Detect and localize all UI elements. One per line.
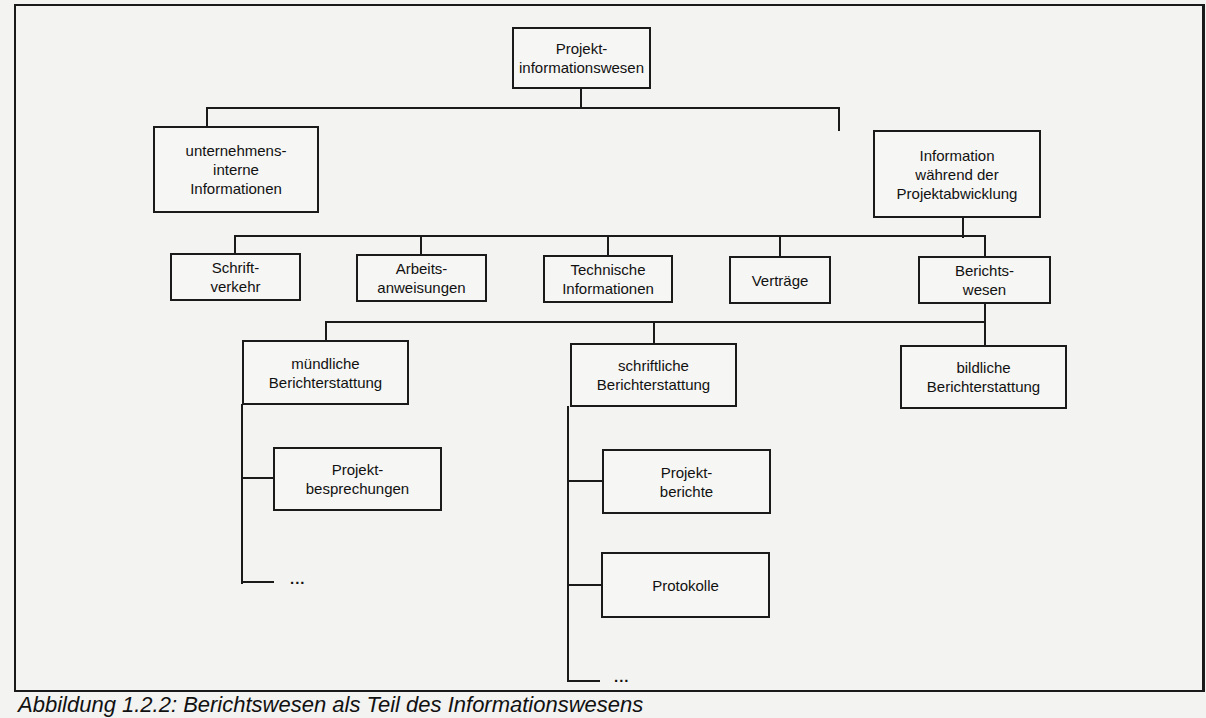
connector [567, 480, 603, 482]
connector [206, 107, 840, 109]
node-label: Information während der Projektabwicklun… [897, 146, 1018, 203]
node-projektinformationswesen: Projekt- informationswesen [512, 27, 651, 89]
connector [420, 235, 422, 254]
node-schriftverkehr: Schrift- verkehr [170, 253, 301, 301]
node-projektberichte: Projekt- berichte [602, 449, 771, 514]
node-protokolle: Protokolle [601, 552, 770, 618]
connector [241, 581, 274, 583]
connector [234, 235, 986, 237]
connector [580, 88, 582, 109]
node-label: unternehmens- interne Informationen [186, 141, 287, 198]
ellipsis-more-items: ... [614, 668, 630, 685]
node-unternehmensinterne-informationen: unternehmens- interne Informationen [153, 126, 319, 213]
connector [241, 477, 274, 479]
node-muendliche-berichterstattung: mündliche Berichterstattung [242, 340, 409, 405]
connector [607, 235, 609, 255]
connector [325, 321, 986, 323]
node-label: Technische Informationen [562, 260, 654, 298]
connector [984, 235, 986, 256]
connector [567, 680, 600, 682]
node-arbeitsanweisungen: Arbeits- anweisungen [356, 254, 487, 302]
node-information-waehrend-projektabwicklung: Information während der Projektabwicklun… [873, 130, 1041, 218]
node-label: Projekt- besprechungen [306, 460, 409, 498]
ellipsis-more-items: ... [290, 570, 306, 587]
node-projektbesprechungen: Projekt- besprechungen [273, 447, 442, 511]
node-label: Protokolle [652, 576, 719, 595]
connector [567, 584, 602, 586]
connector [241, 404, 243, 584]
node-label: schriftliche Berichterstattung [597, 356, 710, 394]
figure-caption: Abbildung 1.2.2: Berichtswesen als Teil … [18, 692, 643, 718]
node-label: mündliche Berichterstattung [269, 354, 382, 392]
node-label: Schrift- verkehr [210, 258, 260, 296]
node-label: Berichts- wesen [955, 261, 1014, 299]
connector [206, 107, 208, 127]
node-label: Verträge [752, 271, 809, 290]
connector [779, 235, 781, 256]
connector [838, 107, 840, 131]
node-technische-informationen: Technische Informationen [543, 255, 673, 303]
node-schriftliche-berichterstattung: schriftliche Berichterstattung [570, 343, 737, 407]
node-label: Projekt- berichte [660, 463, 713, 501]
node-label: bildliche Berichterstattung [927, 358, 1040, 396]
connector [653, 321, 655, 344]
connector [325, 321, 327, 341]
node-bildliche-berichterstattung: bildliche Berichterstattung [900, 345, 1067, 409]
node-label: Arbeits- anweisungen [377, 259, 465, 297]
connector [984, 303, 986, 346]
node-vertraege: Verträge [729, 256, 831, 304]
connector [234, 235, 236, 254]
connector [567, 406, 569, 682]
node-label: Projekt- informationswesen [519, 39, 644, 77]
node-berichtswesen: Berichts- wesen [918, 256, 1051, 304]
